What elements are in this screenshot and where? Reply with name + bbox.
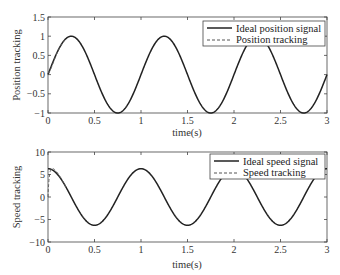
legend-ideal-position: Ideal position signal [236,23,321,34]
speed-plot: 00.511.522.53−10−50510 Speed tracking ti… [11,147,330,272]
y-tick-label: 1 [40,31,45,42]
speed-ylabel: Speed tracking [11,165,22,228]
y-tick-label: −5 [34,214,45,225]
legend-ideal-speed: Ideal speed signal [243,156,318,167]
y-tick-label: −1 [34,108,45,119]
x-tick-label: 0.5 [88,244,101,255]
position-legend: Ideal position signal Position tracking [203,21,325,46]
x-tick-label: 3 [325,115,330,126]
legend-position-tracking: Position tracking [236,34,308,45]
position-ylabel: Position tracking [11,29,22,101]
y-tick-label: 0 [40,69,45,80]
speed-legend: Ideal speed signal Speed tracking [210,154,325,179]
y-tick-label: 5 [40,169,45,180]
y-tick-label: 0 [40,192,45,203]
x-tick-label: 0 [46,244,51,255]
x-tick-label: 2 [232,115,237,126]
x-tick-label: 2.5 [274,244,287,255]
x-tick-label: 3 [325,244,330,255]
x-tick-label: 1.5 [181,244,194,255]
x-tick-label: 1.5 [181,115,194,126]
figure: 00.511.522.53−1−0.500.511.5 Position tra… [0,0,340,275]
y-tick-label: 0.5 [33,50,46,61]
y-tick-label: −0.5 [27,88,45,99]
y-tick-label: 10 [35,147,45,158]
x-tick-label: 1 [139,244,144,255]
y-tick-label: −10 [29,237,45,248]
x-tick-label: 2.5 [274,115,287,126]
x-tick-label: 2 [232,244,237,255]
speed-xlabel: time(s) [172,259,202,271]
x-tick-label: 0.5 [88,115,101,126]
legend-speed-tracking: Speed tracking [243,167,306,178]
x-tick-label: 1 [139,115,144,126]
x-tick-label: 0 [46,115,51,126]
y-tick-label: 1.5 [33,12,46,23]
position-plot: 00.511.522.53−1−0.500.511.5 Position tra… [11,12,330,140]
position-xlabel: time(s) [172,127,202,139]
